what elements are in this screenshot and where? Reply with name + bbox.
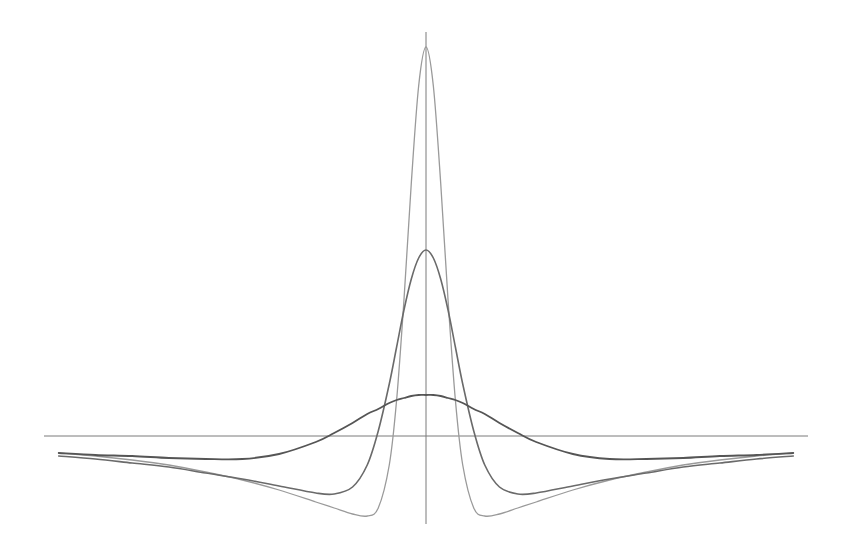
chart [0,0,848,548]
